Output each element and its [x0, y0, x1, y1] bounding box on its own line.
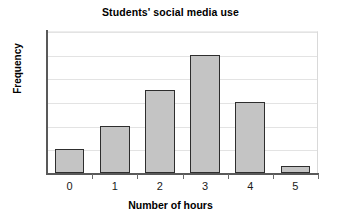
x-tick — [273, 174, 274, 179]
x-tick — [318, 174, 319, 179]
x-tick — [183, 174, 184, 179]
bar — [235, 102, 265, 173]
bar — [190, 55, 220, 173]
x-tick — [137, 174, 138, 179]
bar — [55, 149, 85, 173]
bars-layer — [47, 31, 318, 173]
bar — [100, 126, 130, 173]
x-tick-label: 3 — [195, 180, 215, 192]
x-tick-label: 5 — [285, 180, 305, 192]
bar — [145, 90, 175, 173]
x-tick-label: 2 — [150, 180, 170, 192]
x-tick — [92, 174, 93, 179]
bar-chart: Students' social media use Frequency 012… — [0, 0, 341, 221]
x-tick-label: 4 — [240, 180, 260, 192]
x-tick-label: 1 — [105, 180, 125, 192]
chart-title: Students' social media use — [0, 6, 341, 18]
bar — [281, 166, 311, 173]
x-tick-label: 0 — [60, 180, 80, 192]
x-axis-label: Number of hours — [0, 199, 341, 211]
y-axis-label: Frequency — [12, 19, 23, 119]
x-tick — [228, 174, 229, 179]
